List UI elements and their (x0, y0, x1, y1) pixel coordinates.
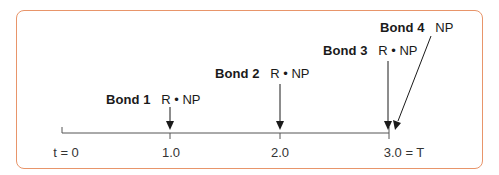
bond-2-payment: R • NP (270, 66, 309, 81)
bond-1-name: Bond 1 (106, 92, 151, 107)
bond-3-arrowhead (384, 121, 392, 130)
bond-3-label: Bond 3 R • NP (323, 43, 418, 58)
bond-1-payment: R • NP (161, 92, 200, 107)
tick-label-2: 2.0 (271, 145, 289, 160)
bond-2-name: Bond 2 (215, 66, 260, 81)
tick-label-3: 3.0 = T (384, 145, 425, 160)
bond-4-label: Bond 4 NP (380, 20, 453, 35)
bond-4-name: Bond 4 (380, 20, 425, 35)
bond-4-payment: NP (435, 20, 453, 35)
bond-3-name: Bond 3 (323, 43, 368, 58)
tick-label-1: 1.0 (162, 145, 180, 160)
timeline-axis (62, 127, 389, 139)
bond-3-payment: R • NP (378, 43, 417, 58)
bond-4-arrowhead (393, 120, 401, 130)
bond-1-label: Bond 1 R • NP (106, 92, 201, 107)
tick-label-0: t = 0 (53, 145, 79, 160)
bond-2-label: Bond 2 R • NP (215, 66, 310, 81)
bond-1-arrowhead (166, 121, 174, 130)
bond-2-arrowhead (276, 121, 284, 130)
